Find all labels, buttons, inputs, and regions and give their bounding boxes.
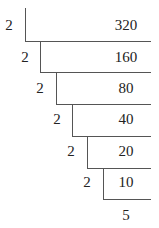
divisor-5: 2 [65,143,77,159]
division-bar-vertical-2 [40,41,41,73]
divisor-6: 2 [81,174,93,190]
dividend-3: 80 [106,80,146,96]
division-bar-horizontal-4 [72,136,151,137]
division-bar-horizontal-3 [56,104,151,105]
division-bar-vertical-5 [87,136,88,169]
division-bar-horizontal-6 [103,199,151,200]
division-bar-vertical-4 [72,104,73,137]
division-bar-vertical-3 [56,72,57,105]
division-bar-vertical-1 [25,8,26,42]
dividend-6: 10 [106,174,146,190]
dividend-5: 20 [106,143,146,159]
dividend-1: 320 [106,17,146,33]
division-bar-horizontal-1 [25,41,151,42]
divisor-3: 2 [34,80,46,96]
divisor-2: 2 [19,49,31,65]
final-quotient: 5 [106,207,146,223]
divisor-4: 2 [51,111,63,127]
dividend-2: 160 [106,49,146,65]
division-bar-vertical-6 [103,168,104,200]
division-bar-horizontal-5 [87,168,151,169]
divisor-1: 2 [3,17,15,33]
dividend-4: 40 [106,111,146,127]
